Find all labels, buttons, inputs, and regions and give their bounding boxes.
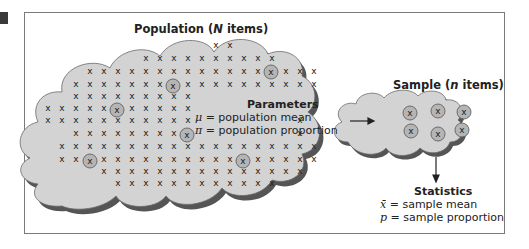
svg-text:x: x [199,79,205,89]
svg-text:x: x [170,81,176,91]
svg-text:x: x [115,154,121,164]
svg-text:x: x [157,91,163,101]
svg-text:x: x [227,66,233,76]
svg-text:x: x [157,103,163,113]
svg-text:x: x [213,66,219,76]
svg-text:x: x [143,166,149,176]
svg-text:x: x [227,53,233,63]
svg-text:x: x [185,166,191,176]
svg-text:x: x [311,66,317,76]
svg-text:x: x [143,53,149,63]
svg-text:x: x [73,128,79,138]
statistics-block: Statistics x̄ = sample mean p = sample p… [380,185,504,224]
svg-text:x: x [143,141,149,151]
svg-text:x: x [241,141,247,151]
svg-text:x: x [459,125,465,135]
svg-text:x: x [227,40,233,50]
svg-text:x: x [45,103,51,113]
svg-text:x: x [213,53,219,63]
svg-text:x: x [101,103,107,113]
svg-text:x: x [283,79,289,89]
svg-text:x: x [171,166,177,176]
svg-text:x: x [115,178,121,188]
svg-text:x: x [241,66,247,76]
svg-text:x: x [73,115,79,125]
population-title: Population (N items) [134,22,268,36]
svg-text:x: x [213,40,219,50]
svg-text:x: x [143,66,149,76]
svg-text:x: x [227,141,233,151]
svg-text:x: x [199,53,205,63]
svg-text:x: x [157,128,163,138]
parameter-proportion: π = population proportion [195,124,338,137]
svg-text:x: x [143,128,149,138]
svg-text:x: x [255,66,261,76]
svg-text:x: x [101,79,107,89]
svg-text:x: x [101,115,107,125]
svg-text:x: x [143,103,149,113]
svg-text:x: x [73,141,79,151]
svg-text:x: x [407,108,413,118]
svg-text:x: x [255,178,261,188]
svg-text:x: x [115,128,121,138]
svg-text:x: x [87,141,93,151]
svg-text:x: x [59,115,65,125]
svg-text:x: x [87,66,93,76]
svg-text:x: x [129,128,135,138]
statistic-mean: x̄ = sample mean [380,198,504,211]
sample-cloud [334,90,463,155]
svg-text:x: x [241,178,247,188]
svg-text:x: x [171,128,177,138]
svg-text:x: x [185,141,191,151]
svg-text:x: x [297,79,303,89]
svg-text:x: x [269,154,275,164]
svg-text:x: x [297,66,303,76]
svg-text:x: x [143,79,149,89]
svg-text:x: x [87,79,93,89]
svg-text:x: x [311,141,317,151]
svg-text:x: x [157,66,163,76]
svg-text:x: x [171,53,177,63]
svg-text:x: x [129,66,135,76]
svg-text:x: x [255,166,261,176]
svg-text:x: x [269,166,275,176]
svg-text:x: x [129,141,135,151]
svg-text:x: x [115,141,121,151]
svg-text:x: x [227,79,233,89]
svg-text:x: x [73,103,79,113]
svg-text:x: x [185,178,191,188]
svg-text:x: x [115,91,121,101]
svg-text:x: x [143,115,149,125]
svg-text:x: x [199,154,205,164]
svg-text:x: x [171,115,177,125]
parameter-mean: μ = population mean [195,111,338,124]
svg-text:x: x [101,66,107,76]
svg-text:x: x [157,178,163,188]
sample-title: Sample (n items) [393,78,504,92]
svg-text:x: x [311,154,317,164]
svg-text:x: x [129,91,135,101]
svg-text:x: x [227,166,233,176]
svg-text:x: x [213,166,219,176]
svg-text:x: x [240,156,246,166]
svg-text:x: x [73,79,79,89]
arrow-sample-to-statistics [433,157,439,182]
svg-text:x: x [185,53,191,63]
svg-text:x: x [157,166,163,176]
svg-text:x: x [297,141,303,151]
svg-text:x: x [143,91,149,101]
svg-text:x: x [227,178,233,188]
svg-text:x: x [101,166,107,176]
svg-text:x: x [129,154,135,164]
svg-text:x: x [87,128,93,138]
svg-text:x: x [73,154,79,164]
svg-text:x: x [255,141,261,151]
svg-text:x: x [185,115,191,125]
svg-text:x: x [435,129,441,139]
svg-text:x: x [199,178,205,188]
svg-text:x: x [87,103,93,113]
svg-text:x: x [171,178,177,188]
svg-text:x: x [115,79,121,89]
svg-text:x: x [461,107,467,117]
parameters-block: Parameters μ = population mean π = popul… [195,98,338,137]
